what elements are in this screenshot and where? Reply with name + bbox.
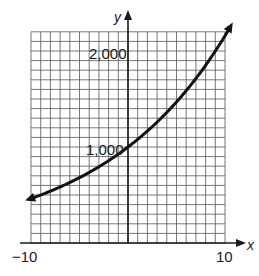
y-tick-2000: 2,000 — [89, 45, 127, 62]
axes — [20, 10, 246, 247]
exponential-graph: y x 2,000 1,000 −10 10 — [0, 0, 259, 276]
x-tick-max: 10 — [216, 248, 233, 265]
exponential-curve — [29, 29, 229, 199]
x-axis-label: x — [246, 237, 255, 253]
y-axis-arrow-icon — [124, 10, 132, 20]
x-axis-arrow-icon — [236, 239, 246, 247]
x-tick-min: −10 — [12, 248, 37, 265]
y-tick-1000: 1,000 — [86, 141, 124, 158]
y-axis-label: y — [113, 9, 122, 25]
